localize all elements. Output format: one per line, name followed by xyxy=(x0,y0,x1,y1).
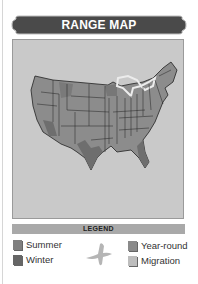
range-map-panel xyxy=(12,39,184,219)
bird-silhouette-icon xyxy=(84,240,114,270)
year-round-swatch xyxy=(128,241,137,251)
legend-item-migration: Migration xyxy=(128,255,180,266)
legend-item-winter: Winter xyxy=(13,254,53,265)
legend-label: Winter xyxy=(26,254,53,265)
legend-item-year-round: Year-round xyxy=(128,240,188,251)
winter-swatch xyxy=(13,255,22,265)
range-map-banner: RANGE MAP xyxy=(11,15,187,35)
legend-label: Summer xyxy=(26,239,62,250)
migration-swatch xyxy=(128,256,137,266)
summer-swatch xyxy=(13,240,22,250)
winter-range-florida xyxy=(137,140,149,168)
winter-range-northern xyxy=(59,82,73,98)
legend-label: Migration xyxy=(141,255,180,266)
page-title: RANGE MAP xyxy=(11,15,187,35)
legend-item-summer: Summer xyxy=(13,239,62,250)
legend-label: Year-round xyxy=(141,240,188,251)
us-map-icon xyxy=(13,40,185,220)
legend-header: LEGEND xyxy=(12,224,185,234)
winter-range-great-lakes xyxy=(105,84,117,96)
page-edge-rule xyxy=(2,0,3,284)
